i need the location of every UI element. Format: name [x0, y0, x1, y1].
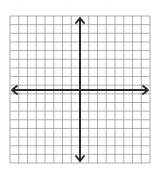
coordinate-plane	[0, 0, 156, 169]
axes	[12, 18, 148, 161]
